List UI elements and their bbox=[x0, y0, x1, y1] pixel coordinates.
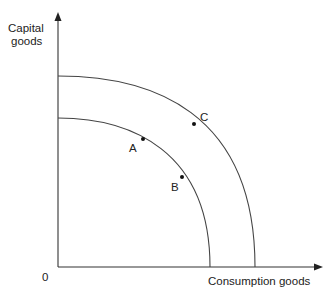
point-c-marker bbox=[192, 122, 196, 126]
point-c-label: C bbox=[200, 111, 208, 123]
point-a-label: A bbox=[129, 142, 137, 154]
inner-ppf-curve bbox=[58, 118, 210, 267]
y-axis-arrow-icon bbox=[55, 12, 62, 21]
origin-label: 0 bbox=[42, 271, 48, 283]
y-axis-label-line1: Capital bbox=[8, 22, 44, 34]
point-b-label: B bbox=[171, 181, 179, 193]
x-axis-arrow-icon bbox=[314, 264, 323, 271]
ppf-diagram: A B C Capital goods Consumption goods 0 bbox=[0, 0, 334, 294]
y-axis-label-line2: goods bbox=[11, 35, 43, 47]
point-a-marker bbox=[141, 137, 145, 141]
point-b-marker bbox=[180, 175, 184, 179]
x-axis-label: Consumption goods bbox=[208, 275, 311, 287]
outer-ppf-curve bbox=[58, 76, 255, 267]
